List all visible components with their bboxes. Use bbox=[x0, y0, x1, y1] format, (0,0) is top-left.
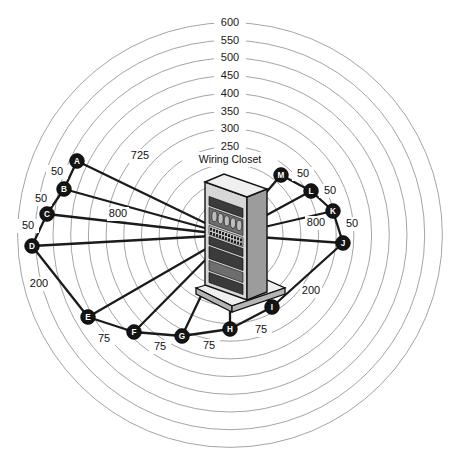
node-label: J bbox=[341, 239, 346, 248]
radial-tick-labels: 600550500450400350300250 bbox=[214, 16, 246, 154]
radial-tick-label: 350 bbox=[221, 105, 239, 117]
rack-module bbox=[218, 214, 223, 224]
distance-label: 50 bbox=[35, 192, 47, 204]
patch-panel-port bbox=[234, 236, 236, 239]
server-rack-icon bbox=[196, 174, 285, 312]
radial-tick-label: 300 bbox=[221, 122, 239, 134]
network-node-m[interactable]: M bbox=[274, 168, 289, 183]
network-node-b[interactable]: B bbox=[57, 182, 72, 197]
spoke-link bbox=[32, 235, 230, 246]
radial-tick-label: 600 bbox=[221, 16, 239, 28]
patch-panel-port bbox=[222, 232, 224, 235]
patch-panel-port bbox=[216, 230, 218, 233]
radial-tick-label: 500 bbox=[221, 51, 239, 63]
node-label: G bbox=[179, 332, 185, 341]
node-label: K bbox=[330, 207, 336, 216]
distance-label: 50 bbox=[346, 217, 358, 229]
spoke-link bbox=[47, 214, 230, 235]
network-node-e[interactable]: E bbox=[81, 310, 96, 325]
spoke-links bbox=[32, 161, 343, 336]
patch-panel-port bbox=[222, 236, 224, 239]
wiring-closet-label: Wiring Closet bbox=[199, 153, 262, 165]
distance-label: 75 bbox=[255, 323, 267, 335]
distance-label: 50 bbox=[297, 167, 309, 179]
radial-tick-label: 250 bbox=[221, 140, 239, 152]
radial-tick-label: 400 bbox=[221, 87, 239, 99]
node-label: C bbox=[44, 210, 50, 219]
distance-label: 50 bbox=[22, 219, 34, 231]
network-node-j[interactable]: J bbox=[336, 236, 351, 251]
patch-panel-port bbox=[231, 240, 233, 243]
network-node-f[interactable]: F bbox=[127, 325, 142, 340]
distance-label: 75 bbox=[154, 340, 166, 352]
distance-label: 800 bbox=[109, 207, 127, 219]
network-node-h[interactable]: H bbox=[223, 322, 238, 337]
network-node-c[interactable]: C bbox=[40, 207, 55, 222]
rack-module bbox=[237, 220, 242, 230]
patch-panel-port bbox=[225, 237, 227, 240]
patch-panel-port bbox=[228, 238, 230, 241]
wiring-closet-radial-diagram: Wiring Closet 600550500450400350300250 7… bbox=[0, 0, 450, 451]
node-label: H bbox=[227, 325, 233, 334]
patch-panel-port bbox=[216, 234, 218, 237]
patch-panel-port bbox=[228, 234, 230, 237]
network-node-i[interactable]: I bbox=[265, 300, 280, 315]
patch-panel-port bbox=[213, 233, 215, 236]
network-node-a[interactable]: A bbox=[70, 154, 85, 169]
node-label: F bbox=[131, 328, 136, 337]
node-label: L bbox=[308, 187, 313, 196]
patch-panel-port bbox=[231, 235, 233, 238]
patch-panel-port bbox=[237, 242, 239, 245]
node-label: M bbox=[278, 171, 285, 180]
distance-label: 50 bbox=[51, 165, 63, 177]
radial-tick-label: 450 bbox=[221, 69, 239, 81]
network-nodes: ABCDEFGHIJKLM bbox=[25, 154, 351, 344]
node-label: D bbox=[29, 242, 35, 251]
distance-label: 50 bbox=[324, 184, 336, 196]
distance-label: 200 bbox=[30, 277, 48, 289]
patch-panel-port bbox=[213, 229, 215, 232]
patch-panel-port bbox=[210, 228, 212, 231]
network-node-d[interactable]: D bbox=[25, 239, 40, 254]
patch-panel-port bbox=[240, 243, 242, 246]
distance-label: 200 bbox=[302, 284, 320, 296]
rack-module bbox=[212, 211, 217, 221]
distance-label: 800 bbox=[307, 216, 325, 228]
network-node-g[interactable]: G bbox=[175, 329, 190, 344]
network-node-k[interactable]: K bbox=[326, 204, 341, 219]
rack-module bbox=[230, 218, 235, 228]
patch-panel-port bbox=[225, 233, 227, 236]
distance-label: 725 bbox=[131, 149, 149, 161]
rack-module bbox=[224, 216, 229, 226]
chain-links bbox=[32, 161, 343, 336]
network-node-l[interactable]: L bbox=[304, 184, 319, 199]
diagram-canvas: Wiring Closet 600550500450400350300250 7… bbox=[0, 0, 450, 451]
node-label: E bbox=[85, 313, 91, 322]
patch-panel-port bbox=[240, 239, 242, 242]
patch-panel-port bbox=[219, 231, 221, 234]
distance-label: 75 bbox=[98, 332, 110, 344]
node-label: B bbox=[61, 185, 67, 194]
patch-panel-port bbox=[219, 235, 221, 238]
patch-panel-port bbox=[210, 232, 212, 235]
patch-panel-port bbox=[234, 241, 236, 244]
distance-label: 75 bbox=[203, 339, 215, 351]
node-label: I bbox=[271, 303, 273, 312]
rack-side-face bbox=[247, 189, 267, 300]
patch-panel-port bbox=[237, 237, 239, 240]
node-label: A bbox=[74, 157, 80, 166]
radial-tick-label: 550 bbox=[221, 34, 239, 46]
